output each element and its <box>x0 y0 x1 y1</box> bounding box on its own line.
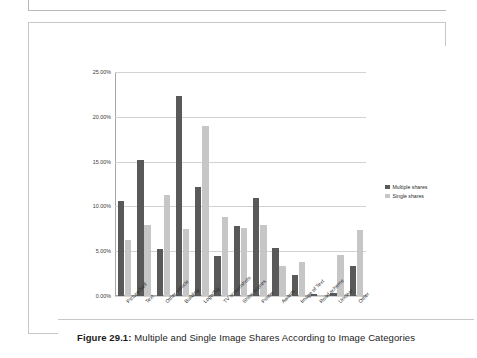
y-axis-tick-label: 5.00% <box>96 248 111 254</box>
bar <box>279 266 285 296</box>
page-canvas: 0.00%5.00%10.00%15.00%20.00%25.00% Pictu… <box>0 0 477 358</box>
bar-group <box>308 72 327 296</box>
legend-swatch-single-shares <box>385 194 390 199</box>
bar-group <box>347 72 366 296</box>
bar <box>337 255 343 296</box>
legend-label-multiple-shares: Multiple shares <box>393 184 428 190</box>
bar-group <box>250 72 269 296</box>
chart-legend: Multiple shares Single shares <box>385 184 427 202</box>
y-axis-tick-label: 20.00% <box>93 114 111 120</box>
bar-group <box>327 72 346 296</box>
bar <box>357 230 363 296</box>
plot-area: 0.00%5.00%10.00%15.00%20.00%25.00% <box>115 72 366 296</box>
bar-group <box>212 72 231 296</box>
bar-group <box>173 72 192 296</box>
bar <box>222 217 228 296</box>
bar-group <box>269 72 288 296</box>
bar-group <box>192 72 211 296</box>
bar-group <box>134 72 153 296</box>
bar <box>299 262 305 296</box>
bar <box>202 126 208 296</box>
bar <box>118 201 124 296</box>
y-axis-tick-label: 0.00% <box>96 293 111 299</box>
y-axis-tick-label: 15.00% <box>93 159 111 165</box>
bar-group <box>154 72 173 296</box>
bar-group <box>289 72 308 296</box>
legend-item-multiple-shares: Multiple shares <box>385 184 427 190</box>
bar <box>176 96 182 296</box>
figure-caption-text: Figure 29.1: Multiple and Single Image S… <box>58 332 415 344</box>
bar <box>195 187 201 296</box>
y-axis-tick-label: 25.00% <box>93 69 111 75</box>
y-axis-tick-label: 10.00% <box>93 203 111 209</box>
figure-caption-number: Figure 29.1: <box>77 332 132 343</box>
bar <box>164 195 170 296</box>
figure-caption-body: Multiple and Single Image Shares Accordi… <box>132 332 416 343</box>
bar-group <box>231 72 250 296</box>
bar <box>137 160 143 296</box>
figure-caption: Figure 29.1: Multiple and Single Image S… <box>58 319 474 356</box>
bar-group <box>115 72 134 296</box>
figure-container: 0.00%5.00%10.00%15.00%20.00%25.00% Pictu… <box>28 22 446 334</box>
bar <box>157 249 163 296</box>
legend-swatch-multiple-shares <box>385 185 390 190</box>
page-top-rule <box>28 10 446 11</box>
legend-item-single-shares: Single shares <box>385 193 427 199</box>
bar-chart: 0.00%5.00%10.00%15.00%20.00%25.00% Pictu… <box>58 46 474 319</box>
bar <box>272 248 278 296</box>
bar-series-container <box>115 72 366 296</box>
bar <box>125 240 131 296</box>
legend-label-single-shares: Single shares <box>393 193 424 199</box>
